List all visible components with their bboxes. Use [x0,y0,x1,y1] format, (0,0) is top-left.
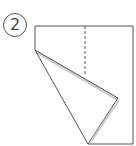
flap-edge-shadow [90,100,119,143]
paper-outline [35,26,133,144]
fold-diagram [0,0,136,146]
folded-flap [35,50,118,144]
fold-crease [35,50,118,98]
fold-crease-shadow [36,52,118,100]
